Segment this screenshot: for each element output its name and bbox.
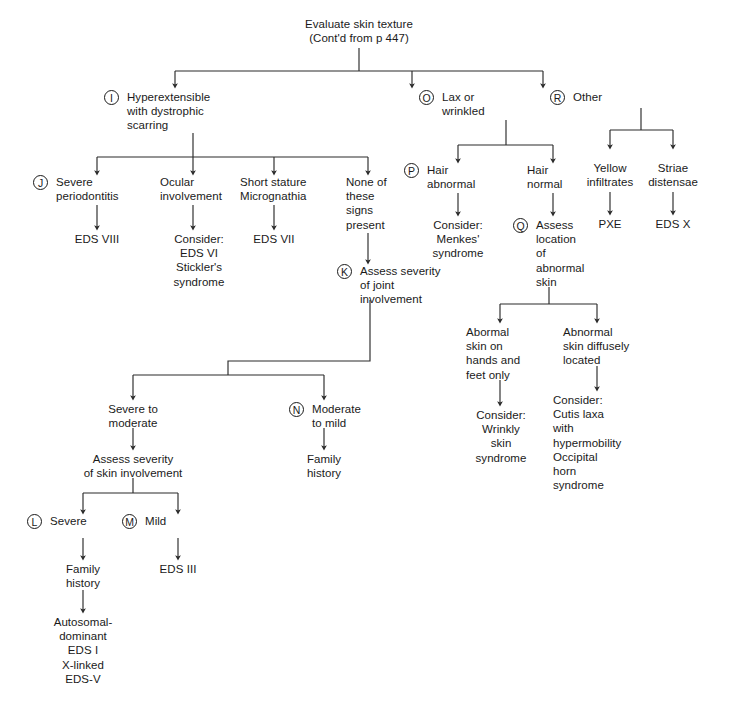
node-abnormal-skin-hands-feet: Abormal skin on hands and feet only [466,325,556,382]
node-moderate-to-mild: Moderate to mild [312,402,402,430]
badge-m: M [122,514,137,529]
flowchart-canvas: Evaluate skin texture (Cont'd from p 447… [0,0,739,708]
node-eds-iii: EDS III [128,562,228,576]
node-assess-skin-involvement: Assess severity of skin involvement [43,452,223,480]
badge-l: L [27,514,42,529]
node-root: Evaluate skin texture (Cont'd from p 447… [239,17,479,45]
badge-o: O [419,90,434,105]
badge-p: P [404,163,419,178]
node-hyperextensible: Hyperextensible with dystrophic scarring [127,90,257,133]
node-lax-or-wrinkled: Lax or wrinkled [442,90,532,118]
node-other: Other [573,90,643,104]
node-autosomal-dominant-results: Autosomal- dominant EDS I X-linked EDS-V [18,615,148,686]
badge-r: R [550,90,565,105]
badge-q: Q [513,218,528,233]
node-eds-vii: EDS VII [219,232,329,246]
node-n-family-history: Family history [274,452,374,480]
node-short-stature: Short stature Micrognathia [240,175,355,203]
node-assess-joint-involvement: Assess severity of joint involvement [360,264,480,307]
node-severe-to-moderate: Severe to moderate [68,402,198,430]
node-l-family-history: Family history [33,562,133,590]
badge-j: J [33,175,48,190]
node-cutis-laxa-consider: Consider: Cutis laxa with hypermobility … [553,393,693,492]
node-hair-abnormal: Hair abnormal [427,163,507,191]
node-eds-x: EDS X [633,217,713,231]
node-severe: Severe [50,514,120,528]
badge-k: K [337,264,352,279]
node-wrinkly-skin-consider: Consider: Wrinkly skin syndrome [446,408,556,465]
badge-i: I [104,90,119,105]
node-mild: Mild [145,514,205,528]
node-striae-distensae: Striae distensae [626,161,721,189]
node-abnormal-skin-diffuse: Abnormal skin diffusely located [563,325,673,368]
node-menkes-consider: Consider: Menkes' syndrome [398,218,518,261]
node-severe-periodontitis: Severe periodontitis [56,175,156,203]
badge-n: N [289,402,304,417]
